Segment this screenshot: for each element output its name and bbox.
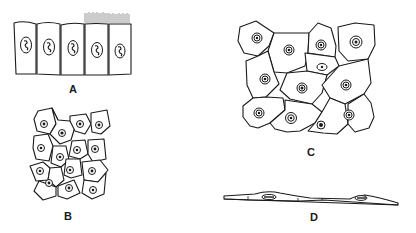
panel-label-b: B [64, 210, 72, 222]
panel-a-columnar-cells [14, 12, 131, 75]
panel-label-c: C [307, 146, 315, 158]
cilia [85, 12, 129, 23]
epithelium-diagram [0, 0, 416, 233]
panel-label-d: D [310, 211, 318, 223]
panel-d-flat-cells [224, 192, 398, 205]
panel-label-a: A [69, 83, 77, 95]
panel-b-cuboidal-cells [30, 108, 110, 200]
panel-c-squamous-cells [238, 21, 375, 134]
